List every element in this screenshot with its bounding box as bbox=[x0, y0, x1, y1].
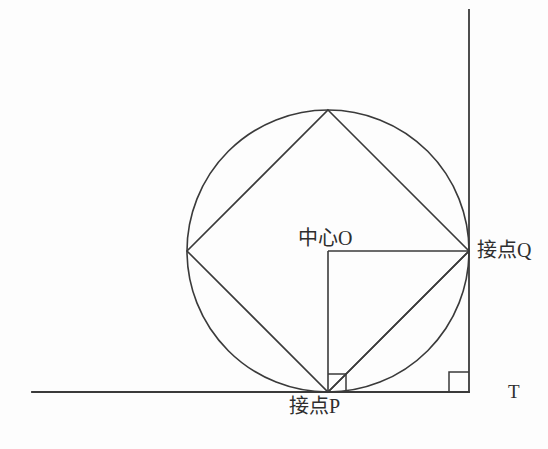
label-center-o: 中心O bbox=[298, 228, 352, 248]
geometry-figure: 中心O 接点Q 接点P T bbox=[0, 0, 548, 449]
geometry-canvas bbox=[0, 0, 548, 449]
chord-p-q bbox=[328, 251, 469, 392]
label-tangent-point-p: 接点P bbox=[289, 396, 340, 416]
right-angle-mark-t bbox=[449, 372, 469, 392]
label-tangent-point-q: 接点Q bbox=[477, 240, 531, 260]
label-corner-t: T bbox=[508, 382, 520, 401]
